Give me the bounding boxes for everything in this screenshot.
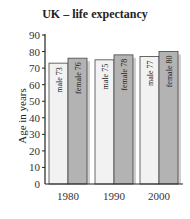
y-tick-label: 80 <box>29 46 41 58</box>
bar-label: male 77 <box>146 61 155 87</box>
y-tick-label: 70 <box>29 62 41 74</box>
y-tick-label: 90 <box>29 29 41 41</box>
x-tick-label: 1980 <box>57 190 80 202</box>
y-tick-label: 50 <box>29 95 41 107</box>
bar-label: male 75 <box>101 64 110 90</box>
x-tick-label: 2000 <box>148 190 171 202</box>
y-tick-label: 30 <box>29 128 41 140</box>
bar-chart: 0102030405060708090male 73female 761980m… <box>0 0 190 219</box>
bar-label: female 78 <box>120 59 129 91</box>
bar-label: female 80 <box>165 56 174 88</box>
x-tick-label: 1990 <box>103 190 126 202</box>
y-tick-label: 0 <box>35 178 41 190</box>
y-tick-label: 20 <box>29 145 41 157</box>
bar-label: male 73 <box>55 67 64 93</box>
y-tick-label: 40 <box>29 112 41 124</box>
y-tick-label: 60 <box>29 79 41 91</box>
bar-label: female 76 <box>74 62 83 94</box>
y-tick-label: 10 <box>29 161 41 173</box>
